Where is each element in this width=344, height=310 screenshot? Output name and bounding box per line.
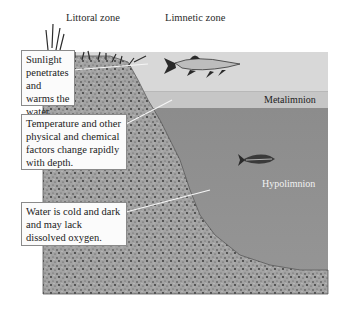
callout-metalimnion: Temperature and other physical and chemi… xyxy=(21,114,127,170)
limnetic-zone-label: Limnetic zone xyxy=(165,12,225,23)
metalimnion-label: Metalimnion xyxy=(264,94,316,105)
callout-epilimnion: Sunlight penetrates and warms the water. xyxy=(21,50,75,106)
callout-hypolimnion: Water is cold and dark and may lack diss… xyxy=(21,202,127,246)
littoral-zone-label: Littoral zone xyxy=(66,12,120,23)
hypolimnion-label: Hypolimnion xyxy=(262,178,315,189)
